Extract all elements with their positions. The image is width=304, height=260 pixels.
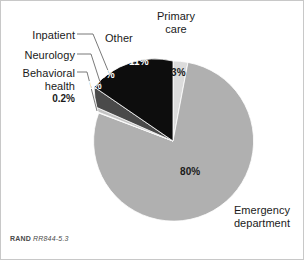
caption-organization: RAND <box>10 235 31 242</box>
pie-label-neurology: Neurology <box>9 49 75 62</box>
pie-value-neurology: 1% <box>87 80 102 91</box>
figure-caption: RAND RR844-5.3 <box>10 234 69 243</box>
pie-chart-figure: Inpatient Neurology Behavioral health Ot… <box>0 0 304 260</box>
pie-label-behavioral-health: Behavioral health <box>7 67 75 92</box>
caption-figure-tag: RR844-5.3 <box>33 235 69 242</box>
pie-value-inpatient: 5% <box>100 69 115 80</box>
pie-value-other: 11% <box>129 56 149 67</box>
pie-label-inpatient: Inpatient <box>9 29 75 42</box>
pie-value-behavioral-health: 0.2% <box>7 93 75 104</box>
pie-value-emergency-department: 80% <box>180 166 200 177</box>
pie-label-other: Other <box>105 32 133 45</box>
pie-label-primary-care: Primary care <box>147 10 205 35</box>
pie-label-emergency-department: Emergency department <box>223 204 301 229</box>
pie-value-primary-care: 3% <box>171 67 186 78</box>
